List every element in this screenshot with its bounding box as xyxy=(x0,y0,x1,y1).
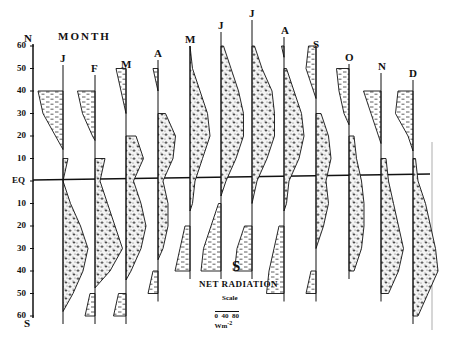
positive-radiation-area xyxy=(349,136,364,271)
negative-radiation-area xyxy=(396,91,414,151)
latitude-tick-label: 40 xyxy=(17,85,26,95)
month-label: D xyxy=(409,67,417,79)
negative-radiation-area xyxy=(114,294,127,317)
month-profile xyxy=(148,60,176,302)
positive-radiation-area xyxy=(316,114,331,249)
month-label: M xyxy=(121,58,131,70)
net-radiation-caption: NET RADIATION xyxy=(199,279,278,289)
negative-radiation-area xyxy=(38,91,63,150)
month-profile xyxy=(306,46,331,302)
month-profile xyxy=(267,37,305,302)
latitude-tick-label: 30 xyxy=(17,108,26,118)
latitude-tick-label: 30 xyxy=(17,243,26,253)
positive-radiation-area xyxy=(221,46,244,196)
positive-radiation-area xyxy=(126,136,146,280)
month-label: M xyxy=(185,33,195,45)
month-profile xyxy=(337,64,365,279)
negative-radiation-area xyxy=(148,271,158,294)
chart-title: MONTH xyxy=(58,30,111,42)
scale-bar: 0 40 80 Wm-2 xyxy=(211,304,239,330)
negative-radiation-area xyxy=(364,91,382,144)
latitude-tick-label: 20 xyxy=(17,130,26,140)
latitude-tick-label: 60 xyxy=(17,40,26,50)
negative-radiation-area xyxy=(153,69,158,92)
latitude-tick-label: 40 xyxy=(17,265,26,275)
negative-radiation-area xyxy=(201,204,221,272)
month-label: J xyxy=(218,19,224,31)
south-center-label: S xyxy=(232,258,240,275)
month-label: O xyxy=(345,51,354,63)
month-profile xyxy=(114,69,147,325)
latitude-tick-label: 10 xyxy=(17,153,26,163)
positive-radiation-area xyxy=(63,159,68,182)
negative-radiation-area xyxy=(306,271,316,294)
negative-radiation-area xyxy=(85,294,95,317)
month-label: S xyxy=(313,38,319,50)
latitude-tick-label: EQ xyxy=(12,175,25,185)
scale-unit-exponent: -2 xyxy=(227,320,232,326)
month-label: A xyxy=(281,24,289,36)
month-profile xyxy=(396,80,439,324)
scale-ticks: 0 40 80 xyxy=(215,311,240,320)
positive-radiation-area xyxy=(413,159,438,317)
latitude-axis xyxy=(30,44,34,318)
month-label: J xyxy=(249,7,255,19)
month-label: F xyxy=(91,62,98,74)
negative-radiation-area xyxy=(78,91,96,141)
negative-radiation-area xyxy=(116,69,126,114)
month-profile xyxy=(201,32,244,279)
latitude-tick-label: 10 xyxy=(17,198,26,208)
positive-radiation-area xyxy=(63,181,88,312)
positive-radiation-area xyxy=(284,69,304,212)
negative-radiation-area xyxy=(306,46,316,99)
positive-radiation-area xyxy=(190,46,210,211)
month-label: J xyxy=(60,52,66,64)
positive-radiation-area xyxy=(95,159,123,288)
positive-radiation-area xyxy=(252,46,275,204)
latitude-tick-label: 50 xyxy=(17,288,26,298)
net-radiation-chart xyxy=(0,0,449,342)
scale-label: Scale xyxy=(222,294,238,302)
latitude-tick-label: 20 xyxy=(17,220,26,230)
scale-unit: Wm xyxy=(214,322,227,330)
positive-radiation-area xyxy=(158,114,176,260)
month-label: N xyxy=(378,60,386,72)
negative-radiation-area xyxy=(337,69,350,125)
equator-line xyxy=(33,174,430,180)
positive-radiation-area xyxy=(381,159,404,294)
month-profile xyxy=(235,20,275,279)
negative-radiation-area xyxy=(175,226,190,271)
latitude-tick-label: 50 xyxy=(17,63,26,73)
month-profile xyxy=(78,75,123,324)
latitude-tick-label: 60 xyxy=(17,310,26,320)
month-label: A xyxy=(154,47,162,59)
